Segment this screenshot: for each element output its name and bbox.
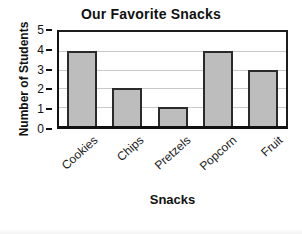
x-tick-label-cookies: Cookies bbox=[59, 133, 101, 172]
y-tick-mark-3 bbox=[46, 69, 52, 71]
y-tick-mark-2 bbox=[46, 88, 52, 90]
x-tick-label-popcorn: Popcorn bbox=[196, 133, 239, 173]
bar-pretzels bbox=[158, 107, 188, 126]
y-axis: 012345 bbox=[0, 30, 52, 129]
y-tick-mark-5 bbox=[46, 29, 52, 31]
bar-fruit bbox=[248, 70, 278, 126]
y-tick-mark-0 bbox=[46, 128, 52, 130]
y-tick-mark-1 bbox=[46, 108, 52, 110]
y-tick-mark-4 bbox=[46, 49, 52, 51]
y-tick-label-2: 2 bbox=[4, 83, 44, 96]
y-tick-label-5: 5 bbox=[4, 24, 44, 37]
x-tick-label-fruit: Fruit bbox=[258, 133, 285, 159]
y-tick-label-4: 4 bbox=[4, 44, 44, 57]
bar-popcorn bbox=[203, 51, 233, 126]
y-tick-label-1: 1 bbox=[4, 103, 44, 116]
plot-area bbox=[57, 30, 288, 129]
bar-cookies bbox=[67, 51, 97, 126]
x-tick-label-chips: Chips bbox=[114, 133, 146, 164]
bar-chips bbox=[112, 88, 142, 126]
y-tick-label-3: 3 bbox=[4, 64, 44, 77]
y-tick-label-0: 0 bbox=[4, 123, 44, 136]
x-axis: CookiesChipsPretzelsPopcornFruit bbox=[57, 133, 288, 191]
bar-chart: Our Favorite Snacks Number of Students 0… bbox=[0, 0, 302, 234]
chart-title: Our Favorite Snacks bbox=[0, 6, 302, 22]
x-tick-label-pretzels: Pretzels bbox=[151, 133, 193, 172]
x-axis-title: Snacks bbox=[57, 192, 288, 207]
scan-shadow bbox=[0, 229, 302, 234]
